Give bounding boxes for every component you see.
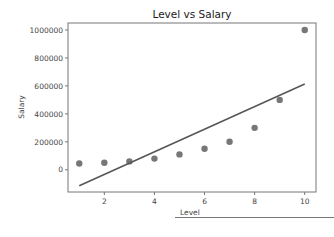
- y-axis-label: Salary: [17, 95, 26, 119]
- x-tick-label: 8: [252, 197, 257, 206]
- data-point: [302, 27, 308, 33]
- regression-line: [79, 84, 304, 186]
- data-point: [151, 155, 157, 161]
- data-point: [176, 151, 182, 157]
- data-point: [276, 97, 282, 103]
- x-tick-label: 2: [102, 197, 107, 206]
- y-axis: 02000004000006000008000001000000: [30, 26, 68, 175]
- x-axis-label: Level: [180, 208, 200, 217]
- y-tick-label: 1000000: [30, 26, 64, 35]
- data-point: [251, 125, 257, 131]
- x-axis: 246810: [102, 192, 310, 206]
- chart-title: Level vs Salary: [152, 8, 231, 20]
- y-tick-label: 800000: [34, 54, 63, 63]
- x-tick-label: 6: [202, 197, 207, 206]
- axes-frame: [68, 23, 316, 192]
- data-point: [226, 139, 232, 145]
- x-tick-label: 4: [152, 197, 157, 206]
- y-tick-label: 400000: [34, 110, 63, 119]
- chart: Level vs Salary 020000040000060000080000…: [0, 0, 334, 237]
- data-point: [201, 146, 207, 152]
- data-point: [76, 160, 82, 166]
- x-tick-label: 10: [300, 197, 310, 206]
- y-tick-label: 600000: [34, 82, 63, 91]
- plot-area: [76, 27, 308, 186]
- y-tick-label: 0: [58, 165, 63, 174]
- divider-line: [175, 217, 334, 218]
- data-point: [101, 160, 107, 166]
- y-tick-label: 200000: [34, 138, 63, 147]
